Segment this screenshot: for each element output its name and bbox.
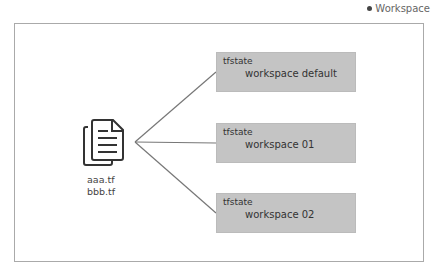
tfstate-box-01: tfstate workspace 01 xyxy=(216,123,356,163)
tfstate-box-02: tfstate workspace 02 xyxy=(216,193,356,233)
file-name: aaa.tf xyxy=(87,174,115,185)
tfstate-title: tfstate xyxy=(223,127,253,137)
document-copy-icon xyxy=(82,117,128,169)
workspace-name: workspace default xyxy=(245,68,337,79)
file-name: bbb.tf xyxy=(87,186,115,197)
tfstate-title: tfstate xyxy=(223,56,253,66)
tfstate-box-default: tfstate workspace default xyxy=(216,52,356,92)
workspace-name: workspace 02 xyxy=(245,209,314,220)
workspace-name: workspace 01 xyxy=(245,139,314,150)
tfstate-title: tfstate xyxy=(223,197,253,207)
